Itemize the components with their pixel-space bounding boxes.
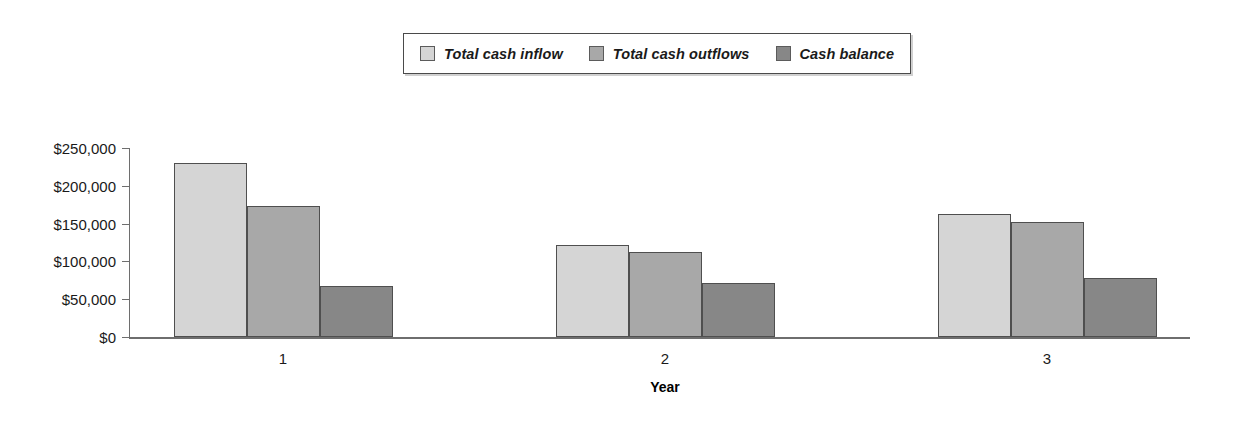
bar xyxy=(938,214,1011,337)
bar xyxy=(320,286,393,337)
bar xyxy=(174,163,247,337)
bar xyxy=(247,206,320,337)
x-axis-tick-label: 2 xyxy=(661,350,669,367)
bar xyxy=(1011,222,1084,337)
x-axis-tick-label: 1 xyxy=(279,350,287,367)
y-axis-tick-label: $0 xyxy=(99,329,116,346)
y-axis-tick-mark xyxy=(122,261,129,262)
y-axis-tick-mark xyxy=(122,337,129,338)
y-axis-tick-label: $100,000 xyxy=(53,253,116,270)
y-axis-tick-mark xyxy=(122,148,129,149)
x-axis-title: Year xyxy=(650,379,680,395)
bar xyxy=(702,283,775,337)
y-axis-line xyxy=(129,148,130,337)
bar-chart: $0$50,000$100,000$150,000$200,000$250,00… xyxy=(0,0,1236,425)
y-axis-labels: $0$50,000$100,000$150,000$200,000$250,00… xyxy=(0,0,116,425)
y-axis-tick-label: $50,000 xyxy=(62,291,116,308)
x-axis-tick-label: 3 xyxy=(1043,350,1051,367)
bar xyxy=(1084,278,1157,337)
y-axis-tick-mark xyxy=(122,224,129,225)
bar xyxy=(556,245,629,337)
y-axis-tick-mark xyxy=(122,299,129,300)
y-axis-tick-label: $150,000 xyxy=(53,215,116,232)
y-axis-tick-label: $250,000 xyxy=(53,140,116,157)
x-axis-line xyxy=(129,337,1190,339)
bar xyxy=(629,252,702,337)
y-axis-tick-mark xyxy=(122,186,129,187)
y-axis-tick-label: $200,000 xyxy=(53,177,116,194)
